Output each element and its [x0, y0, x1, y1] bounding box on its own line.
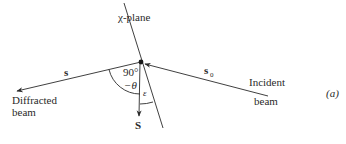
theta-label: −θ [124, 79, 137, 91]
incident-caption-line1: Incident [249, 76, 285, 88]
incident-caption-line2: beam [254, 95, 278, 107]
scattering-vector-arrow [139, 62, 140, 116]
epsilon-label: ε [143, 88, 147, 98]
panel-label: (a) [326, 87, 339, 100]
incident-vector-symbol: s [204, 64, 209, 76]
incident-vector-subscript: 0 [210, 71, 214, 79]
diffracted-caption-line2: beam [12, 106, 36, 118]
diffraction-geometry-diagram: χ-plane s Diffracted beam s 0 Incident b… [0, 0, 346, 144]
angle-arc-epsilon [140, 102, 153, 104]
scattering-vector-symbol: S [135, 119, 141, 131]
diffracted-caption-line1: Diffracted [12, 94, 57, 106]
chi-plane-label: χ-plane [117, 11, 150, 23]
right-angle-label: 90° [123, 66, 138, 78]
origin-point [139, 60, 144, 65]
diffracted-vector-symbol: s [64, 66, 69, 78]
